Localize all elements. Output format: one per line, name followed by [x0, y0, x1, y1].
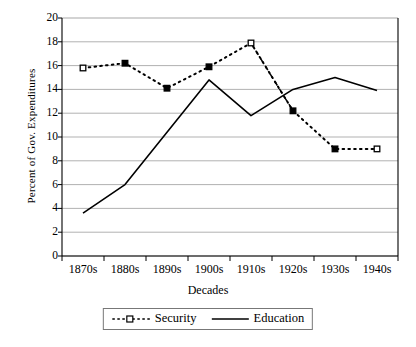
x-axis-tick-label: 1880s: [111, 262, 140, 277]
legend-label-security: Security: [155, 311, 197, 326]
x-axis-tick-label: 1940s: [363, 262, 392, 277]
chart-legend: Security Education: [103, 308, 313, 330]
legend-item-security: Security: [112, 311, 197, 326]
legend-label-education: Education: [253, 311, 304, 326]
series-security: [80, 40, 380, 152]
x-axis-tick-label: 1910s: [237, 262, 266, 277]
series-education: [83, 78, 377, 214]
legend-key-dotted-icon: [112, 314, 152, 324]
chart-axes: [58, 18, 398, 261]
x-axis-tick-label: 1900s: [195, 262, 224, 277]
x-axis-title: Decades: [0, 283, 416, 298]
legend-item-education: Education: [210, 311, 304, 326]
gridlines: [62, 18, 398, 256]
chart-container: Percent of Gov. Expenditures 20181614121…: [0, 0, 416, 347]
x-axis-tick-label: 1920s: [279, 262, 308, 277]
legend-key-solid-icon: [210, 314, 250, 324]
x-axis-tick-label: 1890s: [153, 262, 182, 277]
x-axis-tick-label: 1870s: [69, 262, 98, 277]
x-axis-tick-label: 1930s: [321, 262, 350, 277]
